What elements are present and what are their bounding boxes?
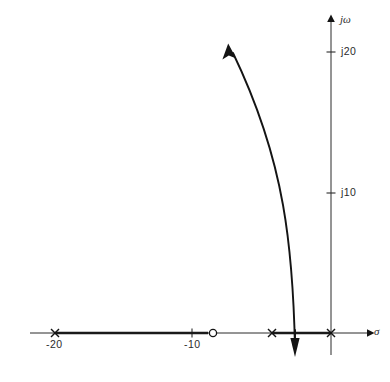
- zero-marker-neg8: [209, 329, 216, 336]
- tick-label-neg10: -10: [184, 338, 200, 350]
- locus-branch-upper: [233, 53, 295, 348]
- locus-branch-upper-arrow-icon: [222, 44, 236, 60]
- root-locus-figure: -20 -10 j20 j10 σ jω: [0, 0, 390, 382]
- locus-branch-lower-arrow-icon: [290, 338, 299, 357]
- plot-canvas: [0, 0, 390, 382]
- imaginary-axis-arrow-icon: [327, 15, 335, 23]
- tick-label-j20: j20: [341, 45, 356, 57]
- jomega-axis-label: jω: [340, 13, 351, 25]
- tick-label-j10: j10: [341, 186, 356, 198]
- sigma-axis-label: σ: [374, 325, 379, 337]
- tick-label-neg20: -20: [46, 338, 62, 350]
